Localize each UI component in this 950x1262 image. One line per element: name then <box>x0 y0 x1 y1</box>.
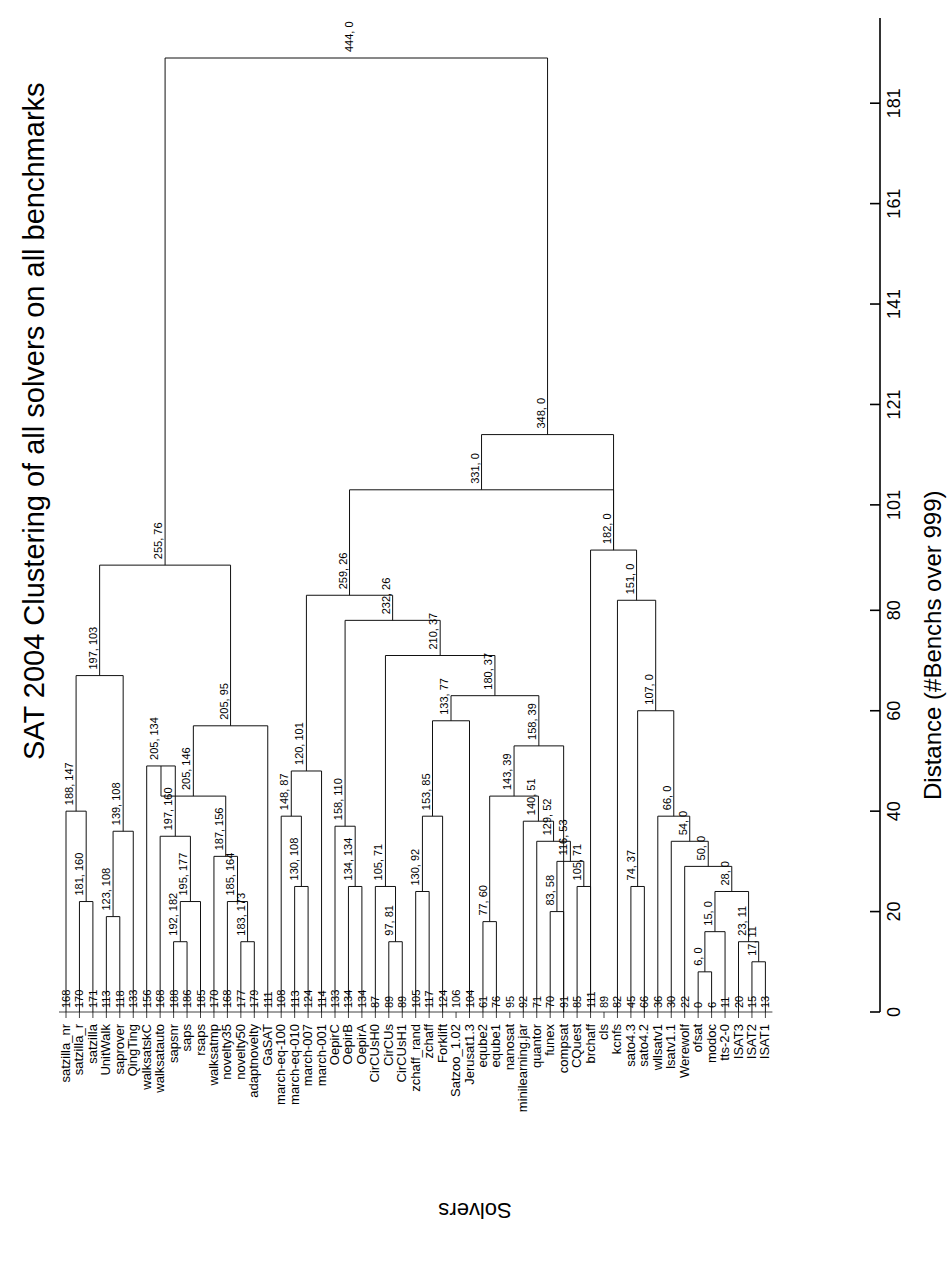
merge-label: 105, 71 <box>571 844 583 881</box>
merge-label: 259, 26 <box>337 553 349 590</box>
merge-label: 130, 108 <box>288 838 300 881</box>
leaf-value: 6 <box>706 1002 718 1008</box>
leaf-label: ISAT1 <box>757 1024 772 1059</box>
leaf-value: 30 <box>665 996 677 1008</box>
merge-label: 181, 160 <box>73 853 85 896</box>
leaf-value: 168 <box>60 990 72 1008</box>
leaf-value: 85 <box>571 996 583 1008</box>
leaf-value: 95 <box>504 996 516 1008</box>
axis-tick-label: 121 <box>884 389 904 419</box>
merge-label: 444, 0 <box>343 21 355 52</box>
leaf-value: 22 <box>679 996 691 1008</box>
merge-label: 197, 103 <box>87 627 99 670</box>
merge-label: 232, 26 <box>380 578 392 615</box>
merge-label: 23, 11 <box>736 906 748 936</box>
leaf-value: 89 <box>598 996 610 1008</box>
merge-label: 28, 0 <box>719 861 731 885</box>
leaf-value: 113 <box>289 990 301 1008</box>
leaf-value-group: 1681701711131181331561681881861851701681… <box>60 990 771 1008</box>
merge-label: 151, 0 <box>624 564 636 595</box>
leaf-value: 124 <box>302 990 314 1008</box>
leaf-value: 91 <box>558 996 570 1008</box>
axis-tick-label: 40 <box>884 801 904 821</box>
leaf-value: 170 <box>73 990 85 1008</box>
leaf-value: 113 <box>100 990 112 1008</box>
merge-label: 205, 95 <box>218 683 230 720</box>
axis-tick-label: 181 <box>884 88 904 118</box>
leaf-label-group: satzilla_nrsatzilla_rsatzillaUnitWalksap… <box>58 1023 772 1112</box>
leaf-value: 111 <box>262 991 274 1008</box>
merge-label: 74, 37 <box>625 850 637 881</box>
distance-axis <box>870 18 880 1012</box>
axis-tick-label: 141 <box>884 289 904 319</box>
leaf-value: 117 <box>423 990 435 1008</box>
merge-label: 255, 76 <box>152 522 164 559</box>
merge-label: 77, 60 <box>477 885 489 916</box>
axis-tick-label-group: 020406080101121141161181 <box>884 88 904 1017</box>
merge-label: 188, 147 <box>63 762 75 805</box>
merge-label: 133, 77 <box>438 678 450 715</box>
leaf-value: 179 <box>248 990 260 1008</box>
leaf-value: 133 <box>329 990 341 1008</box>
leaf-value: 134 <box>342 990 354 1008</box>
merge-label: 331, 0 <box>469 453 481 484</box>
merge-label: 123, 108 <box>100 868 112 911</box>
merge-label: 205, 146 <box>180 747 192 790</box>
merge-label: 187, 156 <box>213 808 225 851</box>
leaf-value: 104 <box>464 990 476 1008</box>
merge-label: 348, 0 <box>535 398 547 429</box>
leaf-value: 186 <box>181 990 193 1008</box>
merge-label: 140, 51 <box>525 778 537 815</box>
leaf-value: 92 <box>517 996 529 1008</box>
merge-label: 54, 0 <box>677 811 689 835</box>
leaf-value: 61 <box>477 996 489 1008</box>
y-axis-title: Solvers <box>438 1198 511 1223</box>
merge-label: 66, 0 <box>661 786 673 810</box>
merge-label-group: 181, 160188, 147123, 108139, 108197, 103… <box>63 21 758 965</box>
leaf-value: 168 <box>154 990 166 1008</box>
merge-label: 120, 101 <box>293 722 305 765</box>
merge-label: 97, 81 <box>383 905 395 936</box>
merge-label: 158, 39 <box>526 703 538 740</box>
leaf-value: 170 <box>208 990 220 1008</box>
leaf-value: 66 <box>638 996 650 1008</box>
leaf-value: 15 <box>746 996 758 1008</box>
merge-label: 130, 92 <box>409 849 421 886</box>
leaf-value: 70 <box>544 996 556 1008</box>
leaf-value: 185 <box>195 990 207 1008</box>
merge-label: 143, 39 <box>501 753 513 790</box>
merge-label: 148, 87 <box>278 773 290 810</box>
leaf-baseline-group <box>59 1012 772 1018</box>
leaf-value: 171 <box>87 990 99 1008</box>
merge-label: 192, 182 <box>167 893 179 936</box>
leaf-value: 177 <box>235 990 247 1008</box>
dendrogram-figure: SAT 2004 Clustering of all solvers on al… <box>0 0 950 1262</box>
leaf-value: 108 <box>275 990 287 1008</box>
merge-label: 195, 177 <box>177 853 189 896</box>
axis-tick-label: 60 <box>884 701 904 721</box>
merge-label: 197, 160 <box>162 787 174 830</box>
axis-tick-label: 101 <box>884 490 904 520</box>
leaf-value: 188 <box>168 990 180 1008</box>
leaf-value: 114 <box>316 990 328 1008</box>
leaf-value: 133 <box>127 990 139 1008</box>
leaf-value: 11 <box>719 997 731 1008</box>
merge-label: 129, 52 <box>541 799 553 836</box>
merge-label: 116, 53 <box>557 819 569 855</box>
leaf-value: 105 <box>410 990 422 1008</box>
axis-tick-label: 80 <box>884 600 904 620</box>
leaf-value: 111 <box>585 991 597 1008</box>
leaf-value: 134 <box>356 990 368 1008</box>
merge-label: 182, 0 <box>601 513 613 544</box>
merge-label: 210, 37 <box>427 613 439 650</box>
x-axis-title: Distance (#Benchs over 999) <box>919 491 946 801</box>
axis-tick-label: 0 <box>884 1007 904 1017</box>
merge-label: 205, 134 <box>148 717 160 760</box>
merge-label: 183, 173 <box>235 893 247 936</box>
leaf-value: 118 <box>114 990 126 1008</box>
merge-label: 83, 58 <box>544 875 556 906</box>
leaf-value: 45 <box>625 996 637 1008</box>
page-title: SAT 2004 Clustering of all solvers on al… <box>18 82 50 760</box>
leaf-value: 13 <box>759 996 771 1008</box>
leaf-value: 0 <box>692 1002 704 1008</box>
